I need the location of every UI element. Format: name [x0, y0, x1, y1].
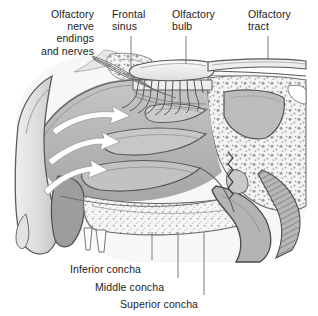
- label-olfactory-nerve-endings: Olfactory nerve endings and nerves: [8, 8, 94, 57]
- label-middle-concha: Middle concha: [95, 281, 187, 293]
- label-frontal-sinus: Frontal sinus: [112, 8, 164, 32]
- label-olfactory-bulb: Olfactory bulb: [172, 8, 228, 32]
- figure-container: Olfactory nerve endings and nerves Front…: [0, 0, 318, 316]
- label-olfactory-tract: Olfactory tract: [248, 8, 308, 32]
- label-superior-concha: Superior concha: [120, 298, 222, 310]
- label-inferior-concha: Inferior concha: [70, 263, 160, 275]
